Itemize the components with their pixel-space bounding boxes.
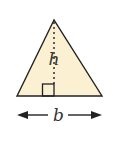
triangle-diagram: h b — [0, 0, 120, 149]
triangle-shape — [17, 20, 102, 96]
height-label: h — [49, 49, 60, 69]
arrow-left-icon — [17, 111, 28, 119]
arrow-right-icon — [91, 111, 102, 119]
base-label: b — [53, 105, 64, 125]
